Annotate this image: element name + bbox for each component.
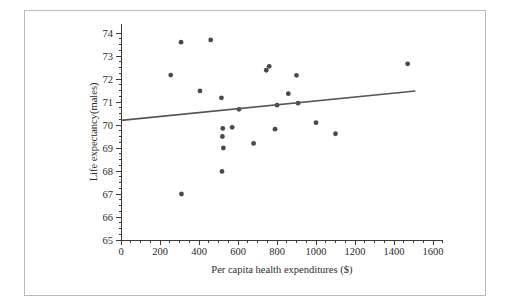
data-point bbox=[251, 141, 256, 146]
x-tick-label: 1400 bbox=[384, 246, 405, 257]
x-tick-label: 600 bbox=[230, 246, 246, 257]
data-point bbox=[179, 192, 184, 197]
scatter-plot: 65666768697071727374 0200400600800100012… bbox=[0, 0, 509, 307]
data-point bbox=[286, 91, 291, 96]
x-tick-label: 1600 bbox=[423, 246, 444, 257]
x-tick-label: 1200 bbox=[345, 246, 366, 257]
x-tick-label: 800 bbox=[269, 246, 285, 257]
y-tick-label: 73 bbox=[103, 51, 114, 62]
trend-line bbox=[121, 91, 415, 120]
y-tick-label: 72 bbox=[103, 74, 114, 85]
data-point bbox=[220, 134, 225, 139]
data-point bbox=[198, 89, 203, 94]
data-point bbox=[264, 68, 269, 73]
data-point bbox=[219, 95, 224, 100]
y-axis: 65666768697071727374 bbox=[103, 24, 122, 246]
data-point bbox=[273, 127, 278, 132]
x-tick-label: 0 bbox=[118, 246, 123, 257]
data-point bbox=[221, 146, 226, 151]
data-point bbox=[294, 73, 299, 78]
data-point bbox=[208, 38, 213, 43]
x-tick-label: 200 bbox=[152, 246, 168, 257]
data-point bbox=[168, 73, 173, 78]
data-points bbox=[168, 38, 410, 197]
x-tick-label: 400 bbox=[191, 246, 207, 257]
x-axis-title: Per capita health expenditures ($) bbox=[211, 264, 353, 276]
y-tick-label: 70 bbox=[103, 120, 114, 131]
data-point bbox=[333, 131, 338, 136]
data-point bbox=[267, 64, 272, 69]
data-point bbox=[220, 169, 225, 174]
figure-container: 65666768697071727374 0200400600800100012… bbox=[0, 0, 509, 307]
x-tick-label: 1000 bbox=[306, 246, 327, 257]
data-point bbox=[314, 120, 319, 125]
data-point bbox=[179, 40, 184, 45]
data-point bbox=[220, 126, 225, 131]
y-axis-title: Life expectancy(males) bbox=[88, 82, 100, 181]
regression-line bbox=[121, 91, 415, 120]
x-axis: 02004006008001000120014001600 bbox=[118, 240, 443, 257]
y-tick-label: 67 bbox=[103, 189, 114, 200]
y-tick-label: 65 bbox=[103, 235, 114, 246]
y-tick-label: 71 bbox=[103, 97, 114, 108]
y-tick-label: 66 bbox=[103, 212, 114, 223]
y-tick-label: 69 bbox=[103, 143, 114, 154]
y-tick-label: 68 bbox=[103, 166, 114, 177]
y-tick-label: 74 bbox=[103, 28, 114, 39]
data-point bbox=[230, 125, 235, 130]
data-point bbox=[405, 61, 410, 66]
